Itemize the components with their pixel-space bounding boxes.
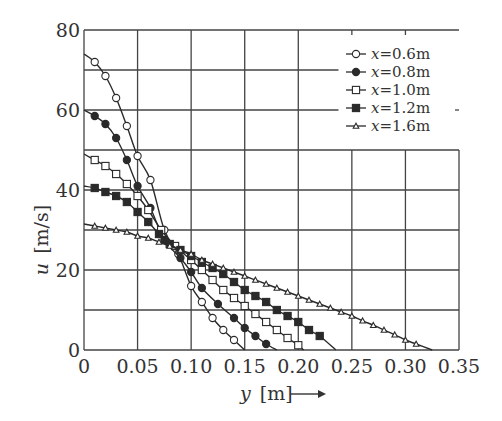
open-square-marker-icon xyxy=(284,334,291,341)
open-triangle-marker-icon xyxy=(295,293,301,298)
open-circle-marker-icon xyxy=(198,298,205,305)
filled-circle-marker-icon xyxy=(241,324,248,331)
open-triangle-marker-icon xyxy=(413,341,419,346)
filled-square-marker-icon xyxy=(352,104,359,111)
x-tick-label: 0.35 xyxy=(438,355,480,377)
open-triangle-marker-icon xyxy=(274,285,280,290)
open-triangle-marker-icon xyxy=(145,235,151,240)
open-triangle-marker-icon xyxy=(263,281,269,286)
legend-item: x=1.2m xyxy=(346,99,430,117)
open-circle-marker-icon xyxy=(91,58,98,65)
filled-square-marker-icon xyxy=(155,230,162,237)
filled-square-marker-icon xyxy=(145,218,152,225)
filled-circle-marker-icon xyxy=(177,254,184,261)
filled-circle-marker-icon xyxy=(123,156,130,163)
open-triangle-marker-icon xyxy=(92,223,98,228)
open-square-marker-icon xyxy=(134,192,141,199)
filled-circle-marker-icon xyxy=(113,134,120,141)
open-triangle-marker-icon xyxy=(328,305,334,310)
open-square-marker-icon xyxy=(113,170,120,177)
open-circle-marker-icon xyxy=(220,326,227,333)
filled-square-marker-icon xyxy=(241,286,248,293)
y-tick-label: 20 xyxy=(56,259,80,281)
y-tick-label: 0 xyxy=(68,339,80,361)
open-square-marker-icon xyxy=(123,180,130,187)
open-square-marker-icon xyxy=(352,86,359,93)
filled-square-marker-icon xyxy=(263,298,270,305)
filled-square-marker-icon xyxy=(316,332,323,339)
legend-item: x=0.6m xyxy=(346,45,430,63)
open-square-marker-icon xyxy=(263,318,270,325)
filled-circle-marker-icon xyxy=(214,300,221,307)
open-triangle-marker-icon xyxy=(392,332,398,337)
y-tick-label: 80 xyxy=(56,19,80,41)
open-triangle-marker-icon xyxy=(103,225,109,230)
curve-line xyxy=(84,224,432,350)
open-circle-marker-icon xyxy=(113,94,120,101)
open-triangle-marker-icon xyxy=(349,313,355,318)
legend-label: x=1.2m xyxy=(371,99,430,117)
open-square-marker-icon xyxy=(102,162,109,169)
open-triangle-marker-icon xyxy=(370,322,376,327)
open-square-marker-icon xyxy=(145,206,152,213)
filled-square-marker-icon xyxy=(113,192,120,199)
x-tick-label: 0.15 xyxy=(224,355,266,377)
open-circle-marker-icon xyxy=(102,72,109,79)
filled-square-marker-icon xyxy=(102,188,109,195)
x-tick-label: 0.25 xyxy=(331,355,373,377)
open-square-marker-icon xyxy=(91,156,98,163)
filled-circle-marker-icon xyxy=(352,68,359,75)
open-circle-marker-icon xyxy=(209,314,216,321)
filled-square-marker-icon xyxy=(230,278,237,285)
legend-label: x=0.6m xyxy=(371,45,430,63)
legend-label: x=1.0m xyxy=(371,81,430,99)
filled-square-marker-icon xyxy=(284,312,291,319)
open-triangle-marker-icon xyxy=(317,301,323,306)
filled-circle-marker-icon xyxy=(263,340,270,347)
legend-item: x=0.8m xyxy=(346,63,430,81)
open-circle-marker-icon xyxy=(134,152,141,159)
open-circle-marker-icon xyxy=(123,122,130,129)
open-circle-marker-icon xyxy=(352,50,359,57)
filled-square-marker-icon xyxy=(134,208,141,215)
filled-circle-marker-icon xyxy=(134,182,141,189)
open-triangle-marker-icon xyxy=(220,265,226,270)
open-square-marker-icon xyxy=(230,294,237,301)
y-tick-label: 60 xyxy=(56,99,80,121)
filled-square-marker-icon xyxy=(91,184,98,191)
filled-square-marker-icon xyxy=(220,270,227,277)
filled-square-marker-icon xyxy=(305,326,312,333)
y-axis-label: u [m/s] xyxy=(30,205,52,275)
filled-circle-marker-icon xyxy=(91,112,98,119)
x-axis-arrow-icon xyxy=(290,390,326,398)
filled-circle-marker-icon xyxy=(198,284,205,291)
chart: x=0.6mx=0.8mx=1.0mx=1.2mx=1.6m 00.050.10… xyxy=(0,0,502,421)
filled-circle-marker-icon xyxy=(188,268,195,275)
open-square-marker-icon xyxy=(241,302,248,309)
x-tick-label: 0.20 xyxy=(277,355,319,377)
open-square-marker-icon xyxy=(295,342,302,349)
open-triangle-marker-icon xyxy=(285,289,291,294)
open-triangle-marker-icon xyxy=(403,337,409,342)
open-triangle-marker-icon xyxy=(381,327,387,332)
open-triangle-marker-icon xyxy=(306,297,312,302)
legend: x=0.6mx=0.8mx=1.0mx=1.2mx=1.6m xyxy=(346,45,430,135)
open-square-marker-icon xyxy=(273,326,280,333)
x-tick-label: 0.05 xyxy=(116,355,158,377)
open-circle-marker-icon xyxy=(230,336,237,343)
legend-item: x=1.6m xyxy=(346,117,430,135)
open-triangle-marker-icon xyxy=(135,233,141,238)
open-square-marker-icon xyxy=(252,310,259,317)
open-triangle-marker-icon xyxy=(353,123,359,128)
filled-square-marker-icon xyxy=(252,292,259,299)
open-circle-marker-icon xyxy=(147,176,154,183)
open-square-marker-icon xyxy=(220,286,227,293)
legend-label: x=0.8m xyxy=(371,63,430,81)
filled-square-marker-icon xyxy=(295,318,302,325)
open-square-marker-icon xyxy=(198,266,205,273)
x-axis-label: y [m] xyxy=(239,382,293,404)
open-triangle-marker-icon xyxy=(360,318,366,323)
x-tick-label: 0.30 xyxy=(384,355,426,377)
open-triangle-marker-icon xyxy=(210,261,216,266)
open-triangle-marker-icon xyxy=(113,227,119,232)
